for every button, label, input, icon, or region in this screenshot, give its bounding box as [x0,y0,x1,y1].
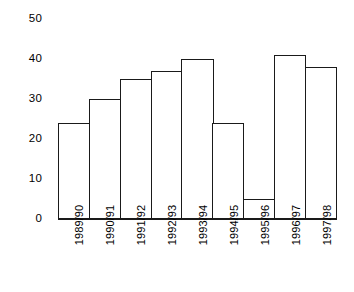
bar-chart: 50 40 30 20 10 0 1989/901990/911991/9219… [0,0,354,292]
x-tick-label: 1989/90 [74,205,85,245]
bar [151,71,183,219]
y-tick-label-0: 0 [35,213,42,225]
x-tick-cell: 1993/94 [182,221,213,292]
x-tick-cell: 1990/91 [89,221,120,292]
y-tick-label-40: 40 [29,53,42,65]
plot-area [58,19,337,219]
x-tick-cell: 1989/90 [58,221,89,292]
x-tick-label: 1992/93 [167,205,178,245]
x-axis-tick-labels: 1989/901990/911991/921992/931993/941994/… [58,221,337,292]
x-tick-label: 1996/97 [291,205,302,245]
y-tick-label-50: 50 [29,13,42,25]
y-tick-label-30: 30 [29,93,42,105]
x-tick-label: 1990/91 [105,205,116,245]
x-tick-label: 1997/98 [322,205,333,245]
x-tick-label: 1995/96 [260,205,271,245]
x-tick-cell: 1992/93 [151,221,182,292]
x-tick-cell: 1994/95 [213,221,244,292]
x-tick-cell: 1991/92 [120,221,151,292]
y-tick-label-10: 10 [29,173,42,185]
x-tick-cell: 1995/96 [244,221,275,292]
x-tick-label: 1991/92 [136,205,147,245]
x-tick-label: 1993/94 [198,205,209,245]
x-tick-label: 1994/95 [229,205,240,245]
bar [89,99,121,219]
x-tick-cell: 1996/97 [275,221,306,292]
bar [181,59,213,219]
bar [120,79,152,219]
y-tick-label-20: 20 [29,133,42,145]
bar [274,55,306,219]
y-axis-tick-labels: 50 40 30 20 10 0 [0,0,52,292]
x-tick-cell: 1997/98 [306,221,337,292]
bar-series [58,19,337,219]
bar [305,67,337,219]
